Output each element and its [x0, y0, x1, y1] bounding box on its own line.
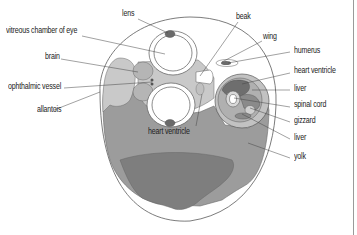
- label-beak: beak: [236, 13, 251, 21]
- lower-eye-inner: [152, 87, 190, 123]
- label-lens: lens: [122, 10, 134, 18]
- lower-lens: [165, 120, 175, 127]
- label-spinal-cord: spinal cord: [294, 101, 326, 109]
- label-vitreous-chamber: vitreous chamber of eye: [6, 27, 77, 35]
- beak-shape: [196, 70, 213, 84]
- right-border-line: [353, 0, 354, 235]
- label-brain: brain: [45, 53, 60, 61]
- label-gizzard: gizzard: [294, 117, 316, 125]
- label-ophthalmic-vessel: ophthalmic vessel: [8, 83, 61, 91]
- brain-lobe-upper: [133, 62, 153, 80]
- ophthalmic-vessel-2: [151, 83, 154, 86]
- label-liver: liver: [294, 85, 306, 93]
- label-allantois: allantois: [37, 106, 61, 114]
- label-liver-lower: liver: [294, 134, 306, 142]
- ophthalmic-vessel: [151, 79, 154, 82]
- small-heart-lobe: [196, 83, 204, 95]
- label-heart-ventricle-inner: heart ventricle: [148, 128, 190, 136]
- spinal-cord-inner: [230, 95, 237, 104]
- label-humerus: humerus: [294, 47, 320, 55]
- liver-lower-shape: [235, 113, 251, 119]
- upper-lens: [165, 31, 175, 38]
- label-yolk: yolk: [294, 153, 306, 161]
- label-wing: wing: [263, 33, 277, 41]
- label-heart-ventricle: heart ventricle: [294, 67, 336, 75]
